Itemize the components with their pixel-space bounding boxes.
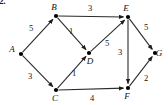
edge-c-to-f xyxy=(58,88,123,90)
edge-f-to-g xyxy=(129,57,152,86)
graph-node-d xyxy=(87,51,91,55)
graph-node-label-b: B xyxy=(51,2,57,12)
graph-node-label-a: A xyxy=(8,44,15,54)
edge-b-to-e xyxy=(58,16,123,17)
edge-weight-f-g: 2 xyxy=(144,73,148,83)
graph-node-label-e: E xyxy=(122,3,129,13)
graph-nodes xyxy=(19,14,157,92)
edge-weight-c-f: 4 xyxy=(90,93,95,103)
graph-node-c xyxy=(54,88,58,92)
graph-node-label-c: C xyxy=(52,93,59,103)
graph-node-f xyxy=(126,86,130,90)
graph-node-label-g: G xyxy=(156,48,163,58)
edge-weight-d-e: 5 xyxy=(105,38,109,48)
edge-weight-c-d: 1 xyxy=(72,68,76,78)
graph-node-e xyxy=(126,15,130,19)
graph-node-b xyxy=(54,14,58,18)
figure-screenshot: 2. 5331145352 ABCDEFG xyxy=(0,0,168,105)
edge-weight-a-c: 3 xyxy=(28,71,32,81)
directed-weighted-graph: 5331145352 ABCDEFG xyxy=(0,0,168,105)
graph-node-labels: ABCDEFG xyxy=(8,2,163,103)
graph-node-label-d: D xyxy=(86,56,94,66)
edge-e-to-g xyxy=(129,19,152,49)
graph-node-label-f: F xyxy=(123,91,130,101)
edge-weight-b-d: 1 xyxy=(69,26,73,36)
edge-weight-b-e: 3 xyxy=(88,3,92,13)
edge-a-to-b xyxy=(23,19,53,52)
edge-weight-e-f: 3 xyxy=(118,47,122,57)
edge-weight-e-g: 5 xyxy=(144,22,148,32)
graph-node-a xyxy=(19,52,23,56)
edge-weight-a-b: 5 xyxy=(29,23,33,33)
